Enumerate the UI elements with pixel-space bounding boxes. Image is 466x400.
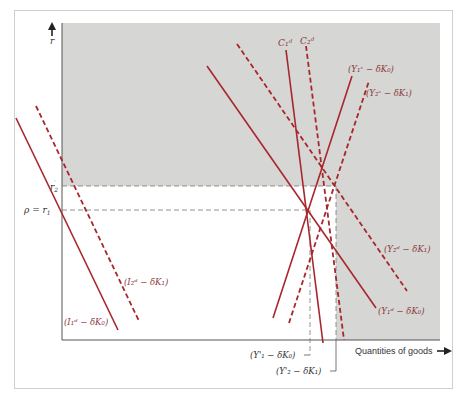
label-Y1s-bottom: (Y'₁ − δK₀): [250, 350, 295, 360]
y-axis-label: r: [50, 36, 55, 46]
label-Y1d: (Y₁ᵈ − δK₀): [378, 306, 424, 316]
label-Y2s-bottom: (Y'₂ − δK₁): [276, 366, 321, 376]
label-Y1s-top: (Y₁ˢ − δK₀): [348, 64, 394, 74]
x-axis-label: Quantities of goods: [355, 346, 433, 356]
r1-label: ρ = r1: [23, 205, 51, 216]
label-Y2d: (Y₂ᵈ − δK₁): [384, 244, 430, 254]
label-C1: C₁ᵈ: [278, 38, 292, 48]
label-Y2s-top: (Y₂ˢ − δK₁): [366, 88, 412, 98]
label-I1: (I₁ᵈ − δK₀): [64, 317, 108, 327]
economics-diagram: r r2′ ρ = r1 C₁ᵈ C₂ᵈ (Y₁ˢ − δK₀) (Y₂ˢ − …: [0, 0, 466, 400]
label-I2: (I₂ᵈ − δK₁): [124, 277, 168, 287]
label-C2: C₂ᵈ: [300, 36, 314, 46]
